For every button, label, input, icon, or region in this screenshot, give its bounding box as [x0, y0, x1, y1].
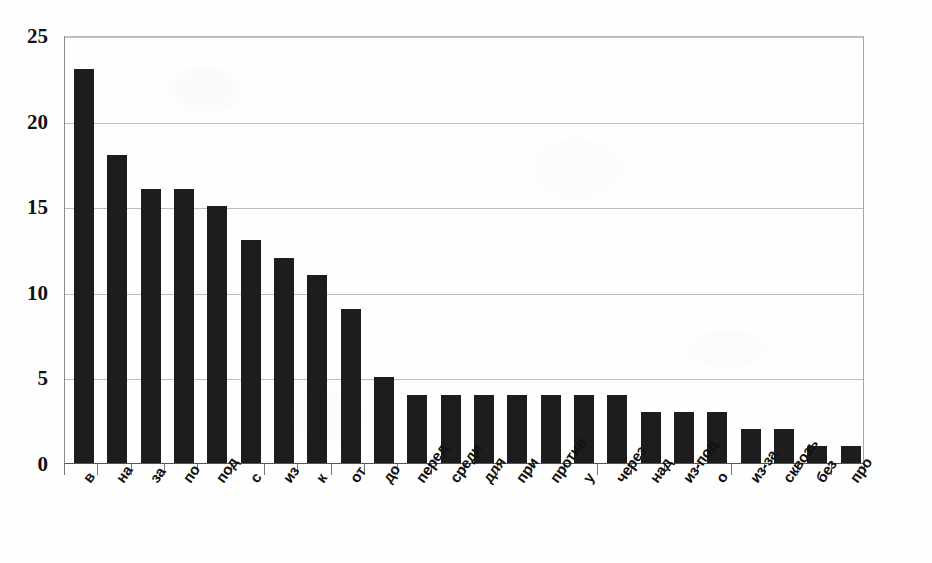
bar-chart: 0510152025 вназапоподсизкотдопередсредид…	[0, 0, 932, 563]
bar	[307, 275, 327, 463]
x-axis-labels: вназапоподсизкотдопередсредидляприпротив…	[64, 476, 864, 563]
x-axis-tick	[331, 464, 332, 475]
bar	[107, 155, 127, 463]
x-axis-tick	[64, 464, 65, 475]
x-axis-tick	[731, 464, 732, 475]
bar	[407, 395, 427, 463]
x-axis-tick	[97, 464, 98, 475]
bar	[274, 258, 294, 463]
bar	[507, 395, 527, 463]
y-axis-tick-label: 15	[27, 195, 48, 220]
bar	[607, 395, 627, 463]
bar-series	[65, 37, 863, 463]
y-axis-tick-label: 5	[38, 366, 49, 391]
bar	[374, 377, 394, 463]
bar	[241, 240, 261, 463]
y-axis-tick-label: 10	[27, 280, 48, 305]
bar	[207, 206, 227, 463]
y-axis-tick-label: 20	[27, 109, 48, 134]
y-axis-tick-label: 0	[38, 452, 49, 477]
bar	[541, 395, 561, 463]
bar	[341, 309, 361, 463]
y-axis-tick-label: 25	[27, 24, 48, 49]
bar	[141, 189, 161, 463]
x-axis-tick	[264, 464, 265, 475]
bar	[674, 412, 694, 463]
bar	[74, 69, 94, 463]
y-axis: 0510152025	[0, 0, 62, 563]
plot-area	[64, 36, 864, 464]
bar	[174, 189, 194, 463]
x-axis-tick	[597, 464, 598, 475]
